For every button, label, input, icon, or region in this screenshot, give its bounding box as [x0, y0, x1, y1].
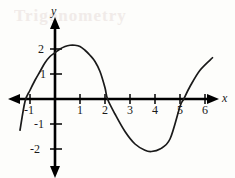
- x-axis-label: x: [222, 92, 227, 104]
- x-tick-label-3: 3: [127, 104, 133, 116]
- y-tick-label-2: 2: [38, 43, 44, 55]
- x-axis-left-arrow-icon: [8, 94, 20, 104]
- x-tick-label-4: 4: [152, 104, 158, 116]
- y-axis-down-arrow-icon: [50, 166, 60, 178]
- x-tick-label-5: 5: [177, 104, 183, 116]
- y-axis-label: y: [51, 5, 56, 17]
- y-tick-label--2: -2: [30, 143, 40, 155]
- y-tick-label--1: -1: [34, 118, 44, 130]
- x-tick-label-6: 6: [202, 104, 208, 116]
- x-tick-label--1: -1: [24, 104, 34, 116]
- x-tick-label-2: 2: [102, 104, 108, 116]
- x-tick-label-1: 1: [77, 104, 83, 116]
- graph-figure: Trigonometry -1 1: [0, 0, 235, 178]
- y-axis-up-arrow-icon: [50, 17, 60, 29]
- x-axis-right-arrow-icon: [207, 94, 219, 104]
- y-tick-label-1: 1: [40, 68, 46, 80]
